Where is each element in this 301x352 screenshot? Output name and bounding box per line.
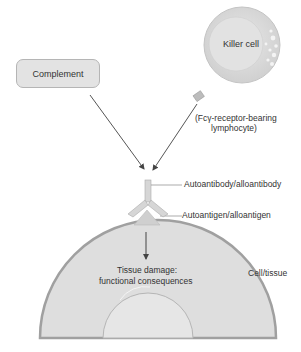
cell-tissue-label: Cell/tissue xyxy=(248,269,287,279)
antigen-label: Autoantigen/alloantigen xyxy=(182,211,271,221)
damage-label-2: functional consequences xyxy=(99,277,193,287)
diagram-graphics xyxy=(0,0,301,352)
damage-label-1: Tissue damage: xyxy=(117,266,177,276)
killer-cell-label: Killer cell xyxy=(223,39,259,49)
killer-cell-note-2: lymphocyte) xyxy=(211,124,257,134)
killer-cell xyxy=(193,7,280,102)
antibody-label: Autoantibody/alloantibody xyxy=(184,180,281,190)
complement-box: Complement xyxy=(16,59,100,88)
